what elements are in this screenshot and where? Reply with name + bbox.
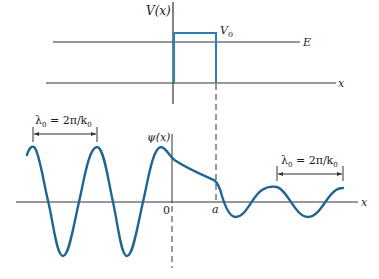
- v-axis-label: V(x): [146, 4, 171, 18]
- barrier-edge-label: a: [212, 203, 219, 216]
- energy-label: E: [302, 36, 311, 49]
- right-wavelength-label: λ0 = 2π/k0: [281, 154, 338, 169]
- right-wavelength-marker: λ0 = 2π/k0: [277, 154, 343, 181]
- origin-label: 0: [163, 204, 170, 217]
- potential-barrier: [174, 33, 216, 83]
- psi-axis-label: ψ(x): [147, 131, 170, 144]
- left-wavelength-label: λ0 = 2π/k0: [35, 114, 92, 129]
- bottom-x-label: x: [361, 196, 368, 209]
- wavefunction-plot: λ0 = 2π/k0 λ0 = 2π/k0 ψ(x) 0 a x: [16, 114, 368, 268]
- barrier-height-label: V0: [220, 24, 233, 39]
- top-x-label: x: [338, 77, 345, 90]
- potential-plot: V(x) V0 E x: [46, 2, 345, 104]
- left-wavelength-marker: λ0 = 2π/k0: [33, 114, 97, 142]
- tunneling-diagram: V(x) V0 E x λ0 = 2π/k0 λ0: [0, 0, 379, 279]
